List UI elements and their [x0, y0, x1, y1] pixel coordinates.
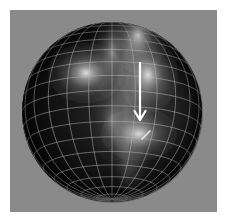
meridian-line	[34, 30, 112, 200]
meridian-line	[89, 22, 112, 199]
plot-panel	[10, 10, 217, 212]
sphere-wireframe-mesh	[22, 22, 202, 202]
meridian-line	[112, 22, 135, 199]
meridian-line	[112, 30, 190, 200]
figure-root	[0, 0, 227, 222]
sphere-stage	[22, 22, 202, 202]
sphere-mesh-clip	[22, 22, 202, 202]
